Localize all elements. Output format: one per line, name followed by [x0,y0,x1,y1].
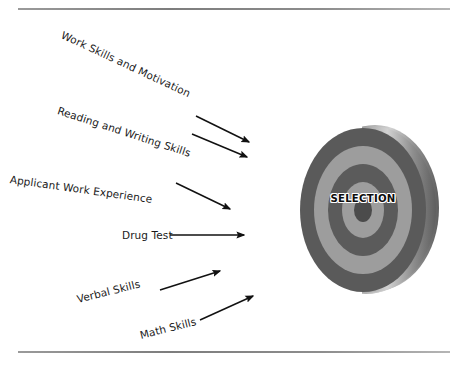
target-center-label: SELECTION [305,192,421,205]
arrow-verbal-skills [160,271,220,290]
arrow-applicant [176,183,230,209]
arrow-work-skills [196,116,249,142]
input-label-drug-test: Drug Test [122,229,173,241]
bullseye-graphic [300,122,452,304]
selection-target: SELECTION [300,122,452,304]
figure-canvas: Work Skills and Motivation Reading and W… [0,0,466,366]
bottom-divider-rule [18,351,450,353]
arrow-math-skills [200,296,253,320]
